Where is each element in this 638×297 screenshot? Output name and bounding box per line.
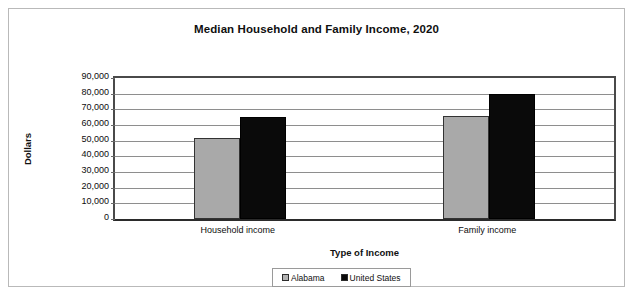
chart-legend: AlabamaUnited States xyxy=(272,268,411,287)
x-axis-category-label: Household income xyxy=(168,225,308,235)
y-axis-tick-label: 90,000 xyxy=(49,71,109,81)
chart-frame: Median Household and Family Income, 2020… xyxy=(8,8,625,287)
bars-layer xyxy=(115,78,614,219)
legend-label: Alabama xyxy=(291,273,325,283)
y-axis-tick-label: 80,000 xyxy=(49,87,109,97)
y-axis-tick-label: 20,000 xyxy=(49,181,109,191)
bar-united-states-household-income xyxy=(240,117,286,219)
y-axis-tick-label: 40,000 xyxy=(49,149,109,159)
x-axis-category-labels: Household incomeFamily income xyxy=(113,225,616,239)
chart-title: Median Household and Family Income, 2020 xyxy=(9,23,624,35)
legend-swatch-icon xyxy=(341,274,348,281)
y-axis-tick-labels: 90,00080,00070,00060,00050,00040,00030,0… xyxy=(49,71,109,223)
plot-area xyxy=(113,76,616,221)
y-axis-tick-label: 10,000 xyxy=(49,196,109,206)
legend-entry-united-states: United States xyxy=(341,273,401,283)
bar-united-states-family-income xyxy=(489,94,535,219)
y-axis-tick-label: 60,000 xyxy=(49,118,109,128)
y-axis-title: Dollars xyxy=(23,109,33,189)
y-axis-tick-label: 50,000 xyxy=(49,134,109,144)
x-axis-title: Type of Income xyxy=(113,247,616,258)
y-axis-tick-label: 70,000 xyxy=(49,102,109,112)
y-axis-tick xyxy=(111,219,115,220)
y-axis-tick-label: 0 xyxy=(49,212,109,222)
y-axis-tick-label: 30,000 xyxy=(49,165,109,175)
bar-alabama-household-income xyxy=(194,138,240,219)
x-axis-category-label: Family income xyxy=(417,225,557,235)
bar-alabama-family-income xyxy=(443,116,489,219)
legend-entry-alabama: Alabama xyxy=(282,273,325,283)
legend-swatch-icon xyxy=(282,274,289,281)
legend-label: United States xyxy=(350,273,401,283)
